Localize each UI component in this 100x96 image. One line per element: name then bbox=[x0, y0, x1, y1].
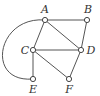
node-label-a: A bbox=[40, 3, 49, 16]
node-b bbox=[84, 17, 89, 22]
node-label-b: B bbox=[83, 3, 92, 16]
node-c bbox=[30, 47, 35, 52]
graph-diagram: ABCDEF bbox=[0, 0, 100, 96]
node-label-f: F bbox=[64, 83, 73, 96]
edge-a-c bbox=[33, 20, 45, 50]
node-label-d: D bbox=[86, 44, 96, 57]
edges-group bbox=[2, 20, 87, 79]
node-e bbox=[30, 76, 35, 81]
node-a bbox=[42, 17, 47, 22]
edge-c-f bbox=[33, 50, 69, 79]
node-f bbox=[66, 76, 71, 81]
node-label-c: C bbox=[21, 44, 30, 57]
edge-d-f bbox=[69, 50, 81, 79]
edge-a-d bbox=[45, 20, 81, 50]
node-d bbox=[78, 47, 83, 52]
node-label-e: E bbox=[28, 83, 37, 96]
